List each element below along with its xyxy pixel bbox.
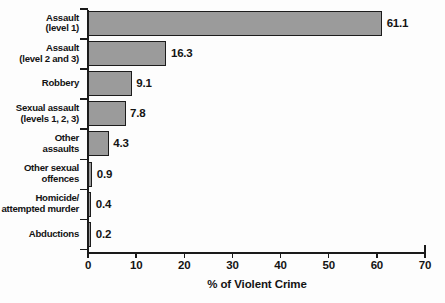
x-axis-tick-label: 50 [323, 259, 335, 271]
x-axis-tick-label: 70 [419, 259, 431, 271]
bar [88, 192, 91, 217]
category-label: Other sexual offences [0, 163, 79, 184]
x-axis-tick [87, 252, 88, 258]
bar-value-label: 9.1 [136, 77, 151, 89]
category-label: Assault (level 1) [0, 13, 79, 34]
bar-row: Other sexual offences0.9 [0, 162, 445, 187]
bar-row: Sexual assault (levels 1, 2, 3)7.8 [0, 101, 445, 126]
bar-value-label: 61.1 [387, 17, 409, 29]
y-axis-tick [80, 8, 88, 10]
bar [88, 131, 109, 156]
x-axis-tick-label: 40 [274, 259, 286, 271]
bar-value-label: 0.9 [97, 168, 112, 180]
x-axis-tick [184, 252, 185, 258]
y-axis-tick [80, 128, 88, 130]
x-axis-tick-label: 60 [371, 259, 383, 271]
bar-value-label: 16.3 [171, 47, 193, 59]
x-axis-tick [135, 252, 136, 258]
category-label: Robbery [0, 78, 79, 89]
category-label: Abductions [0, 229, 79, 240]
y-axis-tick [80, 98, 88, 100]
bar-chart: Assault (level 1)61.1Assault (level 2 an… [0, 0, 445, 303]
y-axis-tick [80, 159, 88, 161]
bar-row: Other assaults4.3 [0, 131, 445, 156]
x-axis-tick [424, 252, 425, 258]
x-axis-tick-label: 10 [130, 259, 142, 271]
y-axis-tick [80, 219, 88, 221]
category-label: Assault (level 2 and 3) [0, 43, 79, 64]
bar [88, 41, 166, 66]
category-label: Homicide/ attempted murder [0, 193, 79, 214]
x-axis-tick-label: 20 [178, 259, 190, 271]
x-axis-tick-label: 0 [85, 259, 91, 271]
bar-row: Robbery9.1 [0, 71, 445, 96]
category-label: Other assaults [0, 133, 79, 154]
bar-row: Assault (level 1)61.1 [0, 11, 445, 36]
x-axis-tick [232, 252, 233, 258]
bar [88, 101, 126, 126]
bar [88, 222, 91, 247]
y-axis-tick [80, 189, 88, 191]
y-axis-tick [80, 68, 88, 70]
y-axis-tick [80, 38, 88, 40]
bar-value-label: 7.8 [130, 107, 145, 119]
bar-value-label: 0.4 [96, 198, 111, 210]
bar-row: Assault (level 2 and 3)16.3 [0, 41, 445, 66]
x-axis-title: % of Violent Crime [88, 278, 426, 290]
x-axis-tick [280, 252, 281, 258]
bar-row: Homicide/ attempted murder0.4 [0, 192, 445, 217]
x-axis-tick-label: 30 [226, 259, 238, 271]
category-label: Sexual assault (levels 1, 2, 3) [0, 103, 79, 124]
bar-value-label: 0.2 [96, 228, 111, 240]
bar-row: Abductions0.2 [0, 222, 445, 247]
x-axis-tick [376, 252, 377, 258]
bar [88, 162, 92, 187]
y-axis-tick [80, 249, 88, 251]
bar-value-label: 4.3 [113, 137, 128, 149]
bar [88, 71, 132, 96]
x-axis-tick [328, 252, 329, 258]
bar [88, 11, 382, 36]
